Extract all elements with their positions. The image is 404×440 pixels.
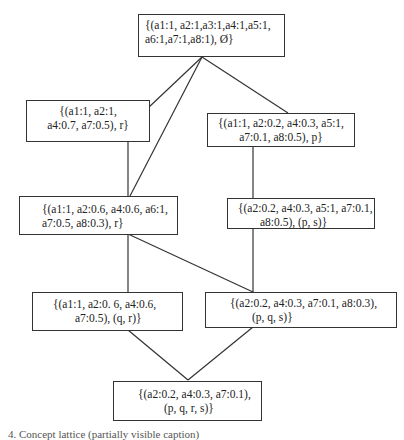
node-text-line: (p, q, s)} (230, 310, 396, 324)
node-text-line: a4:0.7, a7:0.5), r} (27, 118, 149, 132)
node-text-line: a7:0.5, a8:0.3), r} (42, 216, 177, 230)
node-text-line: {(a1:1, a2:0.2, a4:0.3, a5:1, (208, 116, 354, 130)
node-text-line: {(a2:0.2, a4:0.3, a5:1, a7:0.1, (238, 201, 374, 215)
lattice-node-qr: {(a1:1, a2:0. 6, a4:0.6, a7:0.5), (q, r)… (32, 292, 183, 331)
lattice-node-pqs: {(a2:0.2, a4:0.3, a7:0.1, a8:0.3), (p, q… (205, 292, 397, 328)
edge-top-p (202, 57, 288, 113)
node-text-line: {(a1:1, a2:0. 6, a4:0.6, (53, 297, 182, 311)
lattice-node-ps: {(a2:0.2, a4:0.3, a5:1, a7:0.1, a8:0.5),… (227, 198, 375, 229)
node-text-line: (p, q, r, s)} (138, 401, 261, 415)
node-text-line: {(a1:1, a2:0.6, a4:0.6, a6:1, (42, 202, 177, 216)
figure-caption: 4. Concept lattice (partially visible ca… (8, 428, 199, 440)
edge-pqs-bottom (188, 327, 253, 380)
node-text-line: {(a1:1, a2:1, (27, 104, 149, 118)
node-text-line: a7:0.5), (q, r)} (53, 311, 182, 325)
lattice-node-p: {(a1:1, a2:0.2, a4:0.3, a5:1, a7:0.1, a8… (207, 113, 355, 147)
node-text-line: {(a1:1, a2:1,a3:1,a4:1,a5:1, (145, 18, 278, 32)
node-text-line: a7:0.1, a8:0.5), p} (208, 130, 354, 144)
node-text-line: {(a2:0.2, a4:0.3, a7:0.1, a8:0.3), (230, 296, 396, 310)
node-text-line: a6:1,a7:1,a8:1), Ø} (145, 32, 278, 46)
node-text-line: a8:0.5), (p, s)} (238, 215, 374, 229)
edge-qr-bottom (128, 330, 188, 380)
lattice-node-bottom: {(a2:0.2, a4:0.3, a7:0.1), (p, q, r, s)} (113, 381, 262, 421)
edge-r2-pqs (128, 234, 253, 292)
node-text-line: {(a2:0.2, a4:0.3, a7:0.1), (138, 387, 261, 401)
lattice-node-r2: {(a1:1, a2:0.6, a4:0.6, a6:1, a7:0.5, a8… (19, 196, 178, 235)
lattice-node-top: {(a1:1, a2:1,a3:1,a4:1,a5:1, a6:1,a7:1,a… (138, 14, 285, 57)
lattice-node-r: {(a1:1, a2:1, a4:0.7, a7:0.5), r} (26, 100, 150, 142)
